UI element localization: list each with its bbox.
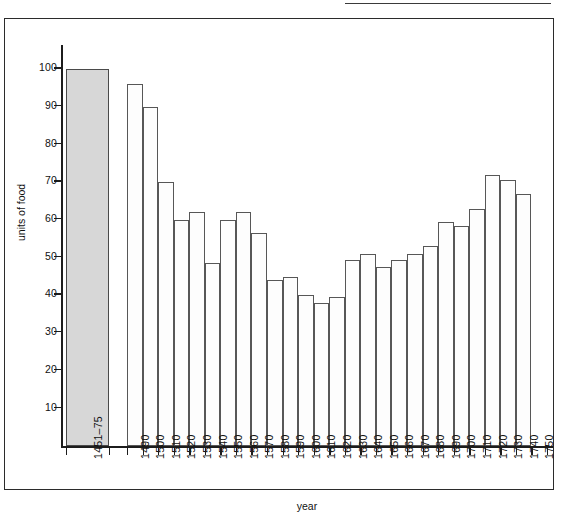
x-tick-mark xyxy=(236,447,237,455)
bar xyxy=(376,267,392,446)
bar xyxy=(391,260,407,447)
bar xyxy=(423,246,439,446)
x-axis-title: year xyxy=(61,500,553,512)
bar xyxy=(189,212,205,446)
x-tick-mark xyxy=(127,447,128,455)
y-tick-label: 50 xyxy=(45,250,57,262)
x-tick-label: 1510 xyxy=(170,434,182,459)
x-tick-mark xyxy=(531,447,532,455)
x-tick-label: 1640 xyxy=(372,434,384,459)
x-tick-mark xyxy=(500,447,501,455)
x-tick-label: 1500 xyxy=(154,434,166,459)
bar xyxy=(236,212,252,446)
y-tick-label: 100 xyxy=(39,61,57,73)
x-tick-label: 1560 xyxy=(248,434,260,459)
bar xyxy=(345,260,361,447)
bar xyxy=(516,194,532,447)
x-tick-mark xyxy=(454,447,455,455)
bar xyxy=(143,107,159,446)
bar xyxy=(500,180,516,446)
bar xyxy=(267,280,283,446)
x-tick-label: 1730 xyxy=(512,434,524,459)
bar xyxy=(298,295,314,446)
x-tick-mark xyxy=(345,447,346,455)
x-tick-label: 1540 xyxy=(217,434,229,459)
y-tick-label: 30 xyxy=(45,325,57,337)
x-tick-label: 1660 xyxy=(403,434,415,459)
x-tick-mark xyxy=(220,447,221,455)
x-tick-mark xyxy=(174,447,175,455)
x-tick-label: 1750 xyxy=(543,434,555,459)
bar xyxy=(283,277,299,447)
x-tick-label: 1740 xyxy=(528,434,540,459)
y-tick-label: 40 xyxy=(45,287,57,299)
x-tick-mark xyxy=(158,447,159,455)
x-tick-mark xyxy=(360,447,361,455)
x-tick-label: 1520 xyxy=(185,434,197,459)
x-tick-mark xyxy=(109,447,110,455)
x-tick-label: 1690 xyxy=(450,434,462,459)
bar xyxy=(485,175,501,446)
bar xyxy=(329,297,345,446)
x-tick-mark xyxy=(516,447,517,455)
x-axis-line xyxy=(61,446,553,448)
x-tick-mark xyxy=(251,447,252,455)
x-tick-label: 1550 xyxy=(232,434,244,459)
x-tick-mark xyxy=(438,447,439,455)
x-tick-label: 1590 xyxy=(294,434,306,459)
x-tick-label: 1490 xyxy=(139,434,151,459)
x-tick-mark xyxy=(391,447,392,455)
x-tick-mark xyxy=(189,447,190,455)
x-tick-mark xyxy=(485,447,486,455)
x-tick-label: 1620 xyxy=(341,434,353,459)
top-rule-decoration xyxy=(345,3,551,4)
bar xyxy=(158,182,174,446)
y-tick-label: 60 xyxy=(45,212,57,224)
figure-frame: units of food year 102030405060708090100… xyxy=(4,18,554,490)
x-tick-label: 1670 xyxy=(419,434,431,459)
x-tick-label: 1630 xyxy=(357,434,369,459)
x-tick-mark xyxy=(469,447,470,455)
x-tick-mark xyxy=(376,447,377,455)
bar xyxy=(205,263,221,446)
bar xyxy=(127,84,143,446)
bar xyxy=(251,233,267,446)
x-tick-mark xyxy=(329,447,330,455)
y-tick-label: 70 xyxy=(45,174,57,186)
bar xyxy=(174,220,190,446)
bar xyxy=(407,254,423,446)
bar xyxy=(438,222,454,446)
x-tick-label: 1530 xyxy=(201,434,213,459)
bar xyxy=(66,69,109,446)
x-tick-mark xyxy=(143,447,144,455)
x-tick-label: 1710 xyxy=(481,434,493,459)
plot-area: units of food year 102030405060708090100… xyxy=(61,45,557,448)
x-tick-mark xyxy=(66,447,67,455)
x-tick-label: 1451–75 xyxy=(92,416,104,459)
bar xyxy=(454,226,470,447)
bar xyxy=(314,303,330,446)
x-tick-label: 1600 xyxy=(310,434,322,459)
x-tick-mark xyxy=(407,447,408,455)
bar xyxy=(360,254,376,446)
x-tick-mark xyxy=(423,447,424,455)
y-tick-label: 80 xyxy=(45,137,57,149)
x-tick-label: 1720 xyxy=(497,434,509,459)
x-tick-label: 1650 xyxy=(388,434,400,459)
y-tick-label: 90 xyxy=(45,99,57,111)
y-axis-line xyxy=(61,45,63,448)
bar xyxy=(220,220,236,446)
y-tick-label: 20 xyxy=(45,363,57,375)
x-tick-mark xyxy=(205,447,206,455)
x-tick-label: 1570 xyxy=(263,434,275,459)
x-tick-label: 1680 xyxy=(434,434,446,459)
x-tick-label: 1610 xyxy=(325,434,337,459)
x-tick-mark xyxy=(314,447,315,455)
x-tick-mark xyxy=(267,447,268,455)
y-tick-label: 10 xyxy=(45,401,57,413)
x-tick-label: 1700 xyxy=(465,434,477,459)
x-tick-mark xyxy=(283,447,284,455)
bar xyxy=(469,209,485,447)
y-axis-title: units of food xyxy=(15,184,27,241)
x-tick-label: 1580 xyxy=(279,434,291,459)
